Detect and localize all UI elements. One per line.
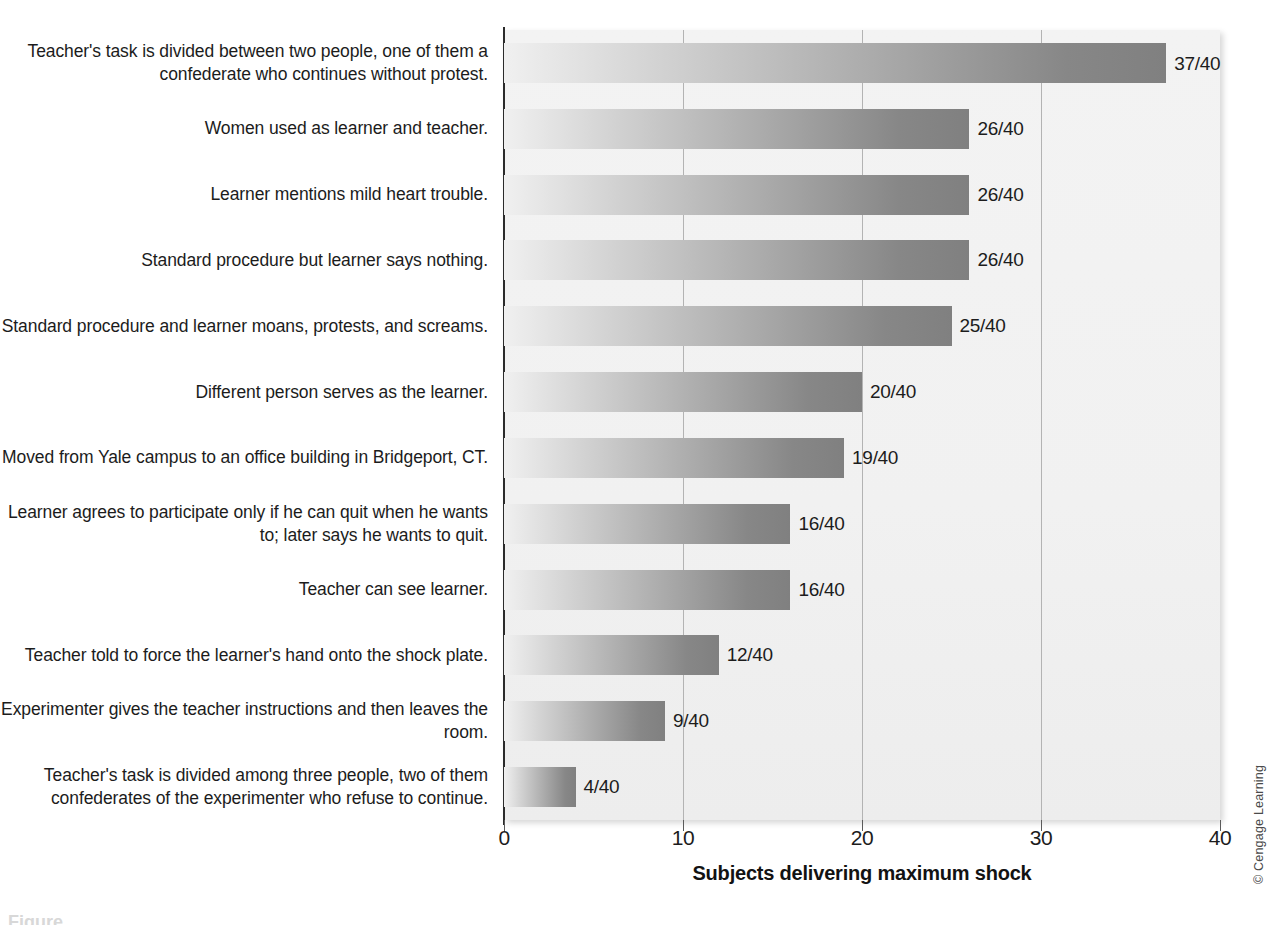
category-label: Teacher told to force the learner's hand… <box>0 644 488 667</box>
bar-row: 16/40 <box>504 504 1279 544</box>
bar-value-label: 16/40 <box>798 513 844 535</box>
x-axis-title: Subjects delivering maximum shock <box>504 862 1220 885</box>
bar-value-label: 19/40 <box>852 447 898 469</box>
bar-row: 9/40 <box>504 701 1279 741</box>
category-label: Teacher can see learner. <box>0 578 488 601</box>
bar <box>504 175 969 215</box>
bar-row: 26/40 <box>504 109 1279 149</box>
category-label: Women used as learner and teacher. <box>0 117 488 140</box>
bar-value-label: 4/40 <box>584 776 620 798</box>
bar-value-label: 16/40 <box>798 579 844 601</box>
bar-row: 26/40 <box>504 175 1279 215</box>
category-label: Moved from Yale campus to an office buil… <box>0 446 488 469</box>
bar <box>504 109 969 149</box>
bar-row: 25/40 <box>504 306 1279 346</box>
bar-row: 4/40 <box>504 767 1279 807</box>
bar-value-label: 20/40 <box>870 381 916 403</box>
category-label: Standard procedure and learner moans, pr… <box>0 315 488 338</box>
bar-row: 37/40 <box>504 43 1279 83</box>
x-tick-label-0: 0 <box>498 826 509 850</box>
category-label: Different person serves as the learner. <box>0 381 488 404</box>
category-labels: Teacher's task is divided between two pe… <box>0 30 496 820</box>
bar-value-label: 25/40 <box>960 315 1006 337</box>
bar-row: 12/40 <box>504 635 1279 675</box>
bar <box>504 438 844 478</box>
bar <box>504 372 862 412</box>
figure-caption-partial: Figure <box>8 912 428 925</box>
x-tick-label-40: 40 <box>1209 826 1231 850</box>
category-label: Learner mentions mild heart trouble. <box>0 183 488 206</box>
copyright-credit: © Cengage Learning <box>1252 765 1266 884</box>
bar <box>504 504 790 544</box>
category-label: Experimenter gives the teacher instructi… <box>0 698 488 744</box>
bar <box>504 701 665 741</box>
figure-caption-text: Figure <box>8 912 428 925</box>
category-label: Teacher's task is divided among three pe… <box>0 764 488 810</box>
bar <box>504 767 576 807</box>
category-label: Learner agrees to participate only if he… <box>0 501 488 547</box>
bar <box>504 306 952 346</box>
bar <box>504 43 1166 83</box>
bar-value-label: 12/40 <box>727 644 773 666</box>
x-tick-label-10: 10 <box>672 826 694 850</box>
bar-row: 19/40 <box>504 438 1279 478</box>
figure-container: Teacher's task is divided between two pe… <box>0 0 1279 925</box>
bar <box>504 635 719 675</box>
category-label: Standard procedure but learner says noth… <box>0 249 488 272</box>
bar-value-label: 26/40 <box>977 118 1023 140</box>
x-tick-label-30: 30 <box>1030 826 1052 850</box>
x-tick-label-20: 20 <box>851 826 873 850</box>
bar-row: 16/40 <box>504 570 1279 610</box>
bar-value-label: 37/40 <box>1174 51 1210 74</box>
bar <box>504 570 790 610</box>
bar-value-label: 9/40 <box>673 710 709 732</box>
bar-value-label: 26/40 <box>977 249 1023 271</box>
category-label: Teacher's task is divided between two pe… <box>0 40 488 86</box>
bar-row: 20/40 <box>504 372 1279 412</box>
bar-row: 26/40 <box>504 240 1279 280</box>
bar <box>504 240 969 280</box>
bar-value-label: 26/40 <box>977 184 1023 206</box>
